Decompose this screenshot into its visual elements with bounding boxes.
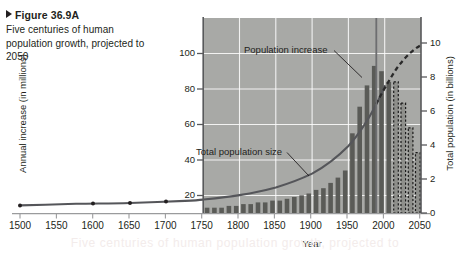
y-left-tick-label: 20 [159,189,195,200]
y-left-tick-label: 100 [159,47,195,58]
line-marker [91,202,95,206]
x-tick-label: 1500 [0,220,40,231]
x-tick-label: 1900 [291,220,331,231]
bar [256,202,261,213]
line-marker [164,200,168,204]
bar [205,208,210,213]
bar [350,133,355,213]
bar-projected [401,103,406,213]
bar [328,183,333,213]
y-axis-right-ticks [421,43,427,213]
bar [285,199,290,213]
page-showthrough-text: Five centuries of human population growt… [30,236,440,254]
y-right-tick-label: 0 [430,207,454,218]
x-tick-label: 1850 [254,220,294,231]
line-marker [18,203,22,207]
bar [387,82,392,213]
bar-projected [408,128,413,213]
bar [292,197,297,213]
y-axis-right-title: Total population (in billions) [444,39,455,189]
bar [263,202,268,213]
y-axis-left-ticks [197,54,203,196]
x-tick-label: 2050 [400,220,440,231]
bar-projected [416,153,421,213]
x-tick-label: 1550 [36,220,76,231]
bar [234,206,239,213]
x-tick-label: 2000 [363,220,403,231]
bar [248,204,253,213]
x-tick-label: 1800 [218,220,258,231]
x-tick-label: 1750 [182,220,222,231]
bar [357,107,362,213]
bar [241,204,246,213]
line-marker [128,201,132,205]
x-tick-label: 1700 [145,220,185,231]
y-axis-left-title: Annual increase (in millions) [17,44,28,184]
x-tick-label: 1600 [73,220,113,231]
bar [343,171,348,214]
chart-svg [0,0,470,255]
bar [307,194,312,214]
population-growth-chart: 20 40 60 80 100 0 2 4 6 8 10 1500 1550 1… [0,0,470,255]
bar [299,195,304,213]
bar [321,188,326,213]
y-left-tick-label: 80 [159,83,195,94]
bar [219,208,224,213]
annotation-total-population-size: Total population size [196,146,282,157]
bar [314,190,319,213]
y-left-tick-label: 40 [159,154,195,165]
figure-root: Figure 36.9A Five centuries of human pop… [0,0,470,255]
bar [212,208,217,213]
bar [278,201,283,213]
x-tick-label: 1950 [327,220,367,231]
y-left-tick-label: 60 [159,118,195,129]
bar-projected [394,82,399,213]
bar [365,85,370,213]
bar [227,206,232,213]
x-tick-label: 1650 [109,220,149,231]
bar [336,178,341,213]
x-axis-ticks [20,214,420,219]
annotation-population-increase: Population increase [244,44,327,55]
bar [270,201,275,213]
